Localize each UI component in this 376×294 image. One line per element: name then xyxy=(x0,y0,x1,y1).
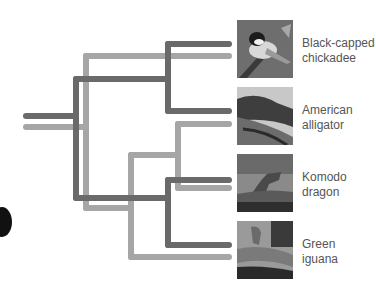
taxon-label-chickadee: Black-capped chickadee xyxy=(302,36,375,66)
taxon-label-iguana: Green iguana xyxy=(302,237,338,267)
alligator-photo xyxy=(237,87,293,145)
iguana-photo xyxy=(237,221,293,279)
taxon-label-komodo: Komodo dragon xyxy=(302,170,347,200)
bird-photo xyxy=(237,20,293,78)
dark-tree xyxy=(26,44,229,245)
taxon-label-alligator: American alligator xyxy=(302,103,353,133)
komodo-photo xyxy=(237,154,293,212)
light-tree xyxy=(26,56,229,257)
